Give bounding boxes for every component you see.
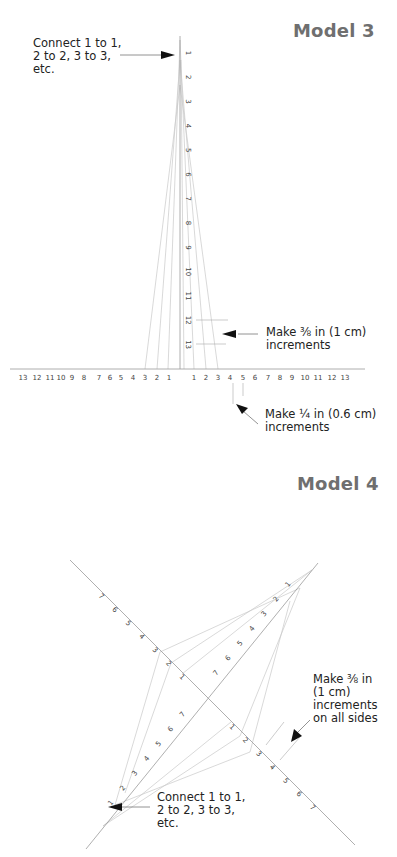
tick-label: 3 — [151, 646, 160, 655]
tick-label: 4 — [142, 754, 151, 763]
tick-label: 3 — [260, 610, 269, 619]
tick-label: 2 — [118, 784, 127, 793]
tick-label: 5 — [236, 639, 245, 648]
increment-guide — [280, 737, 300, 760]
tick-label: 4 — [248, 624, 257, 633]
tick-label: 3 — [254, 750, 263, 759]
tick-label: 2 — [241, 736, 250, 745]
model-4-tick-labels: 1111222233334444555566667777 — [97, 580, 317, 812]
tick-label: 5 — [154, 740, 163, 749]
tick-label: 7 — [212, 669, 221, 678]
tick-label: 7 — [308, 803, 317, 812]
tick-label: 4 — [268, 763, 277, 772]
tick-label: 1 — [178, 673, 187, 682]
model-4-diagram: 1111222233334444555566667777 — [0, 0, 397, 857]
tick-label: 7 — [97, 592, 106, 601]
tick-label: 5 — [281, 776, 290, 785]
tick-label: 6 — [224, 654, 233, 663]
tick-label: 6 — [295, 790, 304, 799]
tick-label: 5 — [124, 619, 133, 628]
tick-label: 4 — [137, 632, 146, 641]
tick-label: 2 — [164, 659, 173, 668]
tick-label: 3 — [130, 769, 139, 778]
arrow-icon — [291, 720, 310, 742]
increment-guide — [266, 722, 284, 745]
tick-label: 6 — [166, 724, 175, 733]
tick-label: 7 — [178, 710, 187, 719]
tick-label: 6 — [110, 606, 119, 615]
